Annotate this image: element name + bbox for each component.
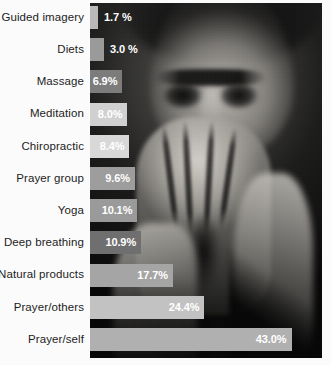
- bar: 10.1%: [90, 199, 137, 222]
- bar-row: Massage6.9%: [0, 70, 331, 93]
- bar: 17.7%: [90, 264, 173, 287]
- bar: 1.7 %: [90, 6, 98, 29]
- bar: 8.4%: [90, 135, 129, 158]
- bar: 3.0 %: [90, 38, 104, 61]
- bar-row: Yoga10.1%: [0, 199, 331, 222]
- bar-value-label: 1.7 %: [98, 12, 132, 23]
- bar-rows: Guided imagery1.7 %Diets3.0 %Massage6.9%…: [0, 0, 331, 365]
- bar-row: Diets3.0 %: [0, 38, 331, 61]
- bar-value-label: 9.6%: [105, 173, 135, 184]
- bar: 10.9%: [90, 231, 141, 254]
- bar-row: Guided imagery1.7 %: [0, 6, 331, 29]
- category-label: Prayer group: [16, 173, 84, 185]
- category-label: Guided imagery: [1, 12, 84, 24]
- chart-container: Guided imagery1.7 %Diets3.0 %Massage6.9%…: [0, 0, 331, 365]
- bar-value-label: 17.7%: [137, 270, 173, 281]
- category-label: Prayer/others: [14, 302, 84, 314]
- bar: 8.0%: [90, 103, 127, 126]
- bar-value-label: 43.0%: [256, 334, 292, 345]
- bar-row: Prayer/others24.4%: [0, 296, 331, 319]
- bar-value-label: 3.0 %: [104, 44, 138, 55]
- category-label: Chiropractic: [21, 141, 84, 153]
- bar-row: Prayer group9.6%: [0, 167, 331, 190]
- bar: 43.0%: [90, 328, 292, 351]
- bar-row: Deep breathing10.9%: [0, 231, 331, 254]
- category-label: Meditation: [30, 108, 84, 120]
- bar: 9.6%: [90, 167, 135, 190]
- bar-value-label: 24.4%: [169, 302, 205, 313]
- bar-value-label: 6.9%: [93, 76, 123, 87]
- bar-value-label: 8.4%: [100, 141, 130, 152]
- bar-value-label: 10.9%: [105, 237, 141, 248]
- bar-value-label: 10.1%: [102, 205, 138, 216]
- bar: 6.9%: [90, 70, 122, 93]
- category-label: Deep breathing: [4, 237, 84, 249]
- bar-row: Meditation8.0%: [0, 103, 331, 126]
- bar-row: Natural products17.7%: [0, 264, 331, 287]
- bar-row: Chiropractic8.4%: [0, 135, 331, 158]
- category-label: Natural products: [0, 269, 84, 281]
- category-label: Diets: [57, 44, 84, 56]
- category-label: Prayer/self: [28, 334, 84, 346]
- bar-row: Prayer/self43.0%: [0, 328, 331, 351]
- category-label: Massage: [37, 76, 84, 88]
- category-label: Yoga: [58, 205, 84, 217]
- bar-value-label: 8.0%: [98, 109, 128, 120]
- bar: 24.4%: [90, 296, 204, 319]
